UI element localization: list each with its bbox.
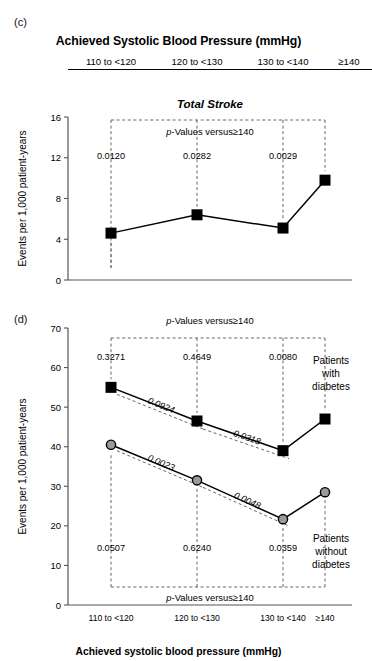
panel-d-pvalue-label-nodiabetes: 0.0359: [269, 543, 297, 553]
panel-c-y-tick-label: 16: [50, 112, 61, 123]
panel-c-series-markers: [106, 175, 331, 239]
panel-d-y-tick-label: 60: [50, 362, 61, 373]
column-header-label: 110 to <120: [86, 56, 136, 67]
panel-d-data-point-diabetes: [278, 445, 289, 456]
figure-top-header: Achieved Systolic Blood Pressure (mmHg): [0, 34, 357, 48]
panel-d-chart: 010203040506070 Events per 1,000 patient…: [0, 310, 357, 640]
column-header-1: 120 to <130: [154, 56, 240, 70]
panel-c-data-point: [320, 175, 331, 186]
panel-d-pvalue-label-diabetes: 0.0080: [269, 352, 297, 362]
column-header-rule: [326, 69, 372, 70]
column-header-3: ≥140: [326, 56, 372, 70]
panel-d-data-point-nodiabetes: [192, 476, 201, 485]
panel-d-group-label-nodiabetes-line: diabetes: [312, 559, 350, 570]
panel-d-x-axis-title: Achieved systolic blood pressure (mmHg): [0, 646, 357, 657]
panel-d-group-label-diabetes-line: Patients: [313, 355, 349, 366]
panel-c-pvalue-labels: 0.01200.02820.0029: [97, 151, 297, 161]
panel-d-x-category-labels: 110 to <120120 to <130130 to <140≥140: [89, 613, 335, 623]
column-header-rule: [154, 69, 240, 70]
panel-d-series-diabetes-line: [111, 387, 325, 450]
column-header-label: ≥140: [338, 56, 359, 67]
panel-d-pvalue-label-diabetes: 0.3271: [97, 352, 125, 362]
panel-d-pvalue-label-nodiabetes: 0.6240: [183, 543, 211, 553]
panel-d-between-pvalue-lower-1-connector: [203, 487, 289, 526]
panel-d-between-group-pvalues: 0.09240.03180.00230.0048: [117, 394, 289, 526]
panel-c-pvalue-label: 0.0029: [269, 151, 297, 161]
panel-d-axes: 010203040506070: [50, 323, 352, 611]
panel-d-group-label-diabetes-line: with: [321, 368, 340, 379]
panel-c-pvalue-header: p-Values versus≥140: [165, 126, 253, 137]
panel-c-y-tick-label: 0: [56, 275, 61, 286]
column-headers: 110 to <120 120 to <130 130 to <140 ≥140: [68, 56, 351, 78]
panel-c-data-point: [192, 209, 203, 220]
panel-c-y-tick-label: 12: [50, 152, 61, 163]
panel-c-data-point: [278, 223, 289, 234]
panel-d-y-tick-label: 40: [50, 441, 61, 452]
panel-d-x-category: 120 to <130: [174, 613, 220, 623]
panel-c-pvalue-bracket: [111, 120, 325, 268]
panel-c-y-tick-label: 4: [56, 234, 61, 245]
panel-c-pvalue-label: 0.0120: [97, 151, 125, 161]
panel-c-letter: (c): [14, 16, 27, 28]
panel-d-pvalue-bracket-bottom: [111, 453, 325, 587]
panel-c-pvalue-label: 0.0282: [183, 151, 211, 161]
panel-c-subtitle: Total Stroke: [177, 98, 244, 110]
column-header-label: 130 to <140: [258, 56, 309, 67]
column-header-rule: [68, 69, 154, 70]
panel-d-series-diabetes-markers: [106, 382, 331, 456]
column-header-label: 120 to <130: [172, 56, 223, 67]
panel-d-pvalue-labels-diabetes: 0.32710.46490.0080: [97, 352, 297, 362]
panel-d-group-label-nodiabetes: Patientswithoutdiabetes: [312, 533, 350, 570]
column-header-2: 130 to <140: [240, 56, 326, 70]
panel-d-data-point-nodiabetes: [278, 515, 287, 524]
panel-d-x-category: 110 to <120: [89, 613, 134, 623]
panel-d-x-category: ≥140: [315, 613, 334, 623]
panel-d-data-point-nodiabetes: [106, 440, 115, 449]
panel-d-x-category: 130 to <140: [260, 613, 306, 623]
panel-d-pvalue-label-nodiabetes: 0.0507: [97, 543, 125, 553]
panel-d-pvalue-labels-nodiabetes: 0.05070.62400.0359: [97, 543, 297, 553]
panel-d-pvalue-label-diabetes: 0.4649: [183, 352, 211, 362]
panel-c-y-tick-label: 8: [56, 193, 61, 204]
panel-d-y-tick-label: 70: [50, 323, 61, 334]
panel-d-y-axis-label: Events per 1,000 patient-years: [17, 398, 28, 534]
panel-d-data-point-diabetes: [320, 414, 331, 425]
panel-c-series-line: [111, 180, 325, 233]
panel-d-pvalue-header-top: p-Values versus≥140: [165, 315, 253, 326]
panel-d-y-tick-label: 50: [50, 402, 61, 413]
panel-d-pvalue-header-bottom: p-Values versus≥140: [165, 592, 253, 603]
panel-d-group-label-diabetes: Patientswithdiabetes: [312, 355, 350, 392]
panel-d-y-tick-label: 20: [50, 520, 61, 531]
column-header-rule: [240, 69, 326, 70]
panel-d-group-label-nodiabetes-line: Patients: [313, 533, 349, 544]
panel-d-series-nodiabetes-line: [111, 445, 325, 519]
panel-d-y-tick-label: 10: [50, 560, 61, 571]
panel-d-y-tick-label: 30: [50, 481, 61, 492]
panel-c-data-point: [106, 228, 117, 239]
panel-c-y-axis-label: Events per 1,000 patient-years: [17, 130, 28, 266]
panel-d-y-tick-label: 0: [56, 600, 61, 611]
panel-c-chart: 0481216 Events per 1,000 patient-years T…: [0, 90, 357, 305]
panel-d-group-label-nodiabetes-line: without: [314, 546, 347, 557]
panel-d-data-point-nodiabetes: [320, 488, 329, 497]
panel-c-axes: 0481216: [50, 112, 352, 286]
panel-d-data-point-diabetes: [106, 382, 117, 393]
column-header-0: 110 to <120: [68, 56, 154, 70]
panel-d-group-label-diabetes-line: diabetes: [312, 381, 350, 392]
panel-d-data-point-diabetes: [192, 415, 203, 426]
